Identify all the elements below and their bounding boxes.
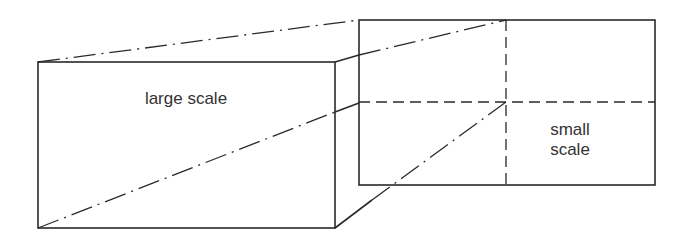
- projection-edge-bottom-right: [335, 200, 372, 228]
- projection-line-top-right: [359, 20, 506, 55]
- small-scale-label-line2: scale: [550, 140, 590, 159]
- large-scale-box: [38, 62, 335, 228]
- projection-edge-bottom-left: [335, 103, 359, 112]
- large-scale-label: large scale: [145, 89, 227, 108]
- small-scale-label-line1: small: [550, 120, 590, 139]
- projection-edge-top-right: [335, 55, 359, 62]
- projection-line-bottom-left: [38, 112, 335, 228]
- projection-line-top-left: [38, 20, 359, 62]
- scale-diagram: large scale small scale: [0, 0, 689, 243]
